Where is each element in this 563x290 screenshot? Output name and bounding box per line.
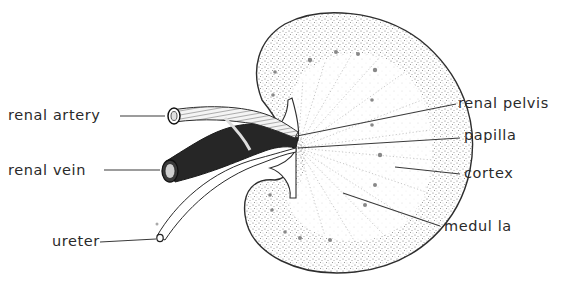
label-medulla: medul la — [444, 219, 512, 234]
label-cortex: cortex — [464, 166, 513, 181]
label-renal-artery: renal artery — [8, 108, 100, 123]
label-renal-vein: renal vein — [8, 163, 86, 178]
label-ureter: ureter — [52, 234, 100, 249]
label-renal-pelvis: renal pelvis — [458, 96, 549, 111]
leader-ureter — [100, 239, 156, 242]
label-papilla: papilla — [464, 128, 516, 143]
ureter-opening — [157, 234, 163, 241]
